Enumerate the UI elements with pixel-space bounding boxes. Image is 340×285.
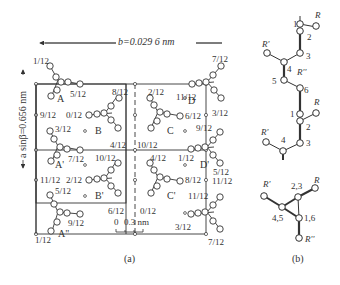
svg-text:9/12: 9/12 [40,110,56,120]
svg-text:R': R' [260,127,269,137]
svg-text:2: 2 [306,122,311,132]
svg-text:R: R [314,10,321,20]
panel-a-caption: (a) [124,253,135,265]
svg-text:D': D' [200,159,209,170]
svg-text:11/12: 11/12 [40,175,60,185]
svg-text:3/12: 3/12 [212,108,228,118]
svg-text:5/12: 5/12 [70,89,86,99]
svg-text:1/12: 1/12 [33,56,49,66]
svg-text:C: C [167,125,174,136]
svg-text:R': R' [261,39,270,49]
svg-text:4/12: 4/12 [110,140,126,150]
svg-text:2/12: 2/12 [148,87,164,97]
svg-text:9/12: 9/12 [68,218,84,228]
svg-text:4: 4 [287,64,292,74]
svg-text:1,6: 1,6 [304,213,316,223]
svg-text:6/12: 6/12 [185,111,201,121]
svg-text:B: B [95,125,102,136]
svg-text:10/12: 10/12 [95,153,116,163]
panel-b-caption: (b) [292,253,304,265]
chain-top [264,16,320,114]
svg-text:3: 3 [306,138,311,148]
svg-text:R': R' [262,179,271,189]
svg-text:R: R [313,175,320,185]
svg-text:8/12: 8/12 [112,87,128,97]
svg-text:7/12: 7/12 [208,237,224,247]
svg-text:11/12: 11/12 [212,176,232,186]
figure-canvas: b=0.029 6 nm a sinβ=0.656 nm [0,0,340,285]
svg-text:1/12: 1/12 [178,153,194,163]
a-axis-arrow: a sinβ=0.656 nm [17,70,28,168]
svg-text:R'': R'' [304,234,315,244]
svg-text:6/12: 6/12 [108,206,124,216]
svg-text:5: 5 [272,76,277,86]
svg-text:1: 1 [293,19,298,29]
svg-text:0.3 nm: 0.3 nm [124,217,149,227]
svg-text:R'': R'' [296,67,307,77]
panel-b: 1 2 3 4 5 6 R R' R'' 1 2 3 4 R R' [260,10,321,265]
scale-bar: 0 0.3 nm [114,217,149,232]
svg-text:4/12: 4/12 [150,153,166,163]
b-axis-label: b=0.029 6 nm [118,36,174,47]
panel-a: b=0.029 6 nm a sinβ=0.656 nm [17,36,232,265]
svg-text:11/12: 11/12 [188,191,208,201]
molecule-B-prime [86,160,121,196]
svg-text:1: 1 [290,109,295,119]
svg-text:10/12: 10/12 [137,140,158,150]
svg-text:B': B' [95,190,104,201]
svg-text:4: 4 [281,135,286,145]
svg-text:7/12: 7/12 [212,54,228,64]
svg-text:D: D [188,95,195,106]
svg-text:A': A' [55,159,64,170]
svg-text:2/12: 2/12 [66,175,82,185]
svg-text:4,5: 4,5 [272,213,284,223]
svg-text:2,3: 2,3 [291,181,303,191]
svg-text:8/12: 8/12 [185,175,201,185]
svg-text:3/12: 3/12 [175,222,191,232]
svg-text:A": A" [58,228,69,239]
svg-text:1/12: 1/12 [35,235,51,245]
svg-text:3/12: 3/12 [55,124,71,134]
svg-text:6: 6 [304,85,309,95]
svg-text:2: 2 [307,32,312,42]
svg-text:3: 3 [306,51,311,61]
svg-text:A: A [57,93,65,104]
svg-text:0/12: 0/12 [66,110,82,120]
b-axis-arrow: b=0.029 6 nm [40,36,222,48]
svg-text:9/12: 9/12 [196,123,212,133]
svg-text:R: R [313,97,320,107]
svg-text:0/12: 0/12 [140,206,156,216]
svg-text:7/12: 7/12 [68,154,84,164]
svg-text:C': C' [167,190,176,201]
molecule-B [86,95,122,131]
a-axis-label: a sinβ=0.656 nm [17,91,28,158]
svg-text:5/12: 5/12 [55,186,71,196]
svg-text:0: 0 [114,217,119,227]
molecule-C-prime [147,160,183,196]
